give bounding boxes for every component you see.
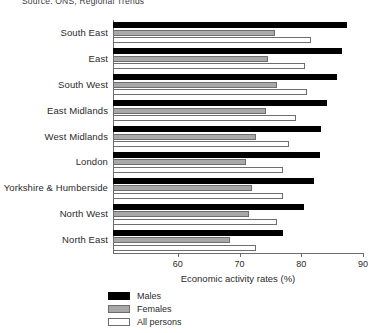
category-label: Yorkshire & Humberside <box>4 182 108 193</box>
bar-males <box>113 230 283 236</box>
chart-legend: Males Females All persons <box>108 290 182 329</box>
category-label: North East <box>62 234 108 245</box>
category-label: London <box>76 156 108 167</box>
x-axis-tick-label: 80 <box>296 259 306 269</box>
source-note: Source: ONS, Regional Trends <box>22 0 144 6</box>
legend-item-all-persons: All persons <box>108 316 182 327</box>
bar-females <box>113 56 268 62</box>
bar-group: East <box>113 48 363 69</box>
bar-males <box>113 204 304 210</box>
bar-males <box>113 126 321 132</box>
bar-all <box>113 193 283 199</box>
bar-all <box>113 37 311 43</box>
bar-females <box>113 30 275 36</box>
x-axis-tick <box>178 253 179 257</box>
category-label: South East <box>61 27 108 38</box>
bar-group: East Midlands <box>113 100 363 121</box>
category-label: East Midlands <box>47 105 108 116</box>
bar-males <box>113 74 337 80</box>
bar-females <box>113 134 256 140</box>
bar-all <box>113 167 283 173</box>
legend-label-females: Females <box>137 304 172 314</box>
legend-label-all-persons: All persons <box>137 317 182 327</box>
legend-label-males: Males <box>137 291 161 301</box>
category-label: South West <box>58 79 108 90</box>
category-label: West Midlands <box>45 131 108 142</box>
x-axis-tick <box>301 253 302 257</box>
legend-swatch-females-icon <box>108 305 130 313</box>
legend-item-females: Females <box>108 303 182 314</box>
bar-all <box>113 115 296 121</box>
bar-males <box>113 22 347 28</box>
x-axis-tick <box>363 253 364 257</box>
bar-group: North East <box>113 230 363 251</box>
category-label: East <box>89 53 108 64</box>
bar-males <box>113 178 314 184</box>
bar-females <box>113 108 266 114</box>
bar-males <box>113 48 342 54</box>
x-axis-line <box>113 253 363 254</box>
bar-all <box>113 141 289 147</box>
category-label: North West <box>60 208 108 219</box>
x-axis-tick-label: 90 <box>358 259 368 269</box>
bar-females <box>113 159 246 165</box>
bar-females <box>113 211 249 217</box>
bar-group: Yorkshire & Humberside <box>113 178 363 199</box>
bar-group: South East <box>113 22 363 43</box>
bar-males <box>113 100 327 106</box>
bar-females <box>113 237 230 243</box>
bar-all <box>113 89 307 95</box>
bar-group: South West <box>113 74 363 95</box>
bar-all <box>113 219 277 225</box>
x-axis-tick <box>240 253 241 257</box>
plot-area: South EastEastSouth WestEast MidlandsWes… <box>113 20 363 253</box>
bar-all <box>113 245 256 251</box>
legend-swatch-all-persons-icon <box>108 318 130 326</box>
x-axis-tick-label: 60 <box>173 259 183 269</box>
bar-females <box>113 82 277 88</box>
bar-group: West Midlands <box>113 126 363 147</box>
bar-females <box>113 185 252 191</box>
x-axis-title: Economic activity rates (%) <box>113 273 363 284</box>
bar-males <box>113 152 320 158</box>
economic-activity-rates-chart: Source: ONS, Regional Trends South EastE… <box>0 0 383 333</box>
bar-group: London <box>113 152 363 173</box>
x-axis-tick-label: 70 <box>235 259 245 269</box>
bar-group: North West <box>113 204 363 225</box>
legend-item-males: Males <box>108 290 182 301</box>
bar-all <box>113 63 305 69</box>
legend-swatch-males-icon <box>108 292 130 300</box>
